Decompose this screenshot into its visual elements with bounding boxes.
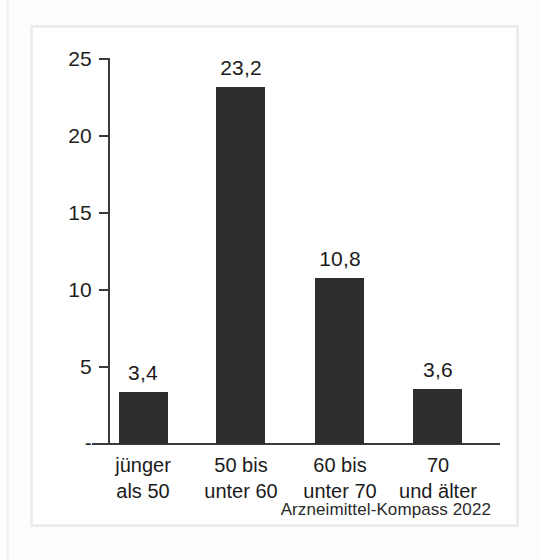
- chart-figure: 25 20 15 10 5 - 3,4 23,2 10,8 3,6 jünger…: [0, 0, 539, 560]
- bar-value-label-4: 3,6: [423, 358, 453, 382]
- bar-value-label-1: 3,4: [128, 361, 158, 385]
- x-category-label-3: 60 bis unter 70: [303, 452, 376, 505]
- bar-value-label-3: 10,8: [319, 247, 361, 271]
- x-category-label-1-line-2: als 50: [115, 478, 171, 504]
- x-category-label-3-line-1: 60 bis: [303, 452, 376, 478]
- bar-value-label-2: 23,2: [220, 56, 262, 80]
- bar-60-bis-unter-70[interactable]: [315, 278, 364, 444]
- x-category-label-4: 70 und älter: [399, 452, 477, 505]
- x-category-label-2-line-1: 50 bis: [204, 452, 277, 478]
- bars-layer: [0, 0, 539, 444]
- x-category-label-1-line-1: jünger: [115, 452, 171, 478]
- source-note: Arzneimittel-Kompass 2022: [281, 500, 491, 520]
- bar-juenger-als-50[interactable]: [119, 392, 168, 444]
- bar-70-und-aelter[interactable]: [413, 389, 462, 444]
- x-category-label-1: jünger als 50: [115, 452, 171, 505]
- x-category-label-4-line-1: 70: [399, 452, 477, 478]
- plot-area: 25 20 15 10 5 - 3,4 23,2 10,8 3,6 jünger…: [0, 0, 539, 560]
- bar-50-bis-unter-60[interactable]: [216, 87, 265, 444]
- x-category-label-2-line-2: unter 60: [204, 478, 277, 504]
- x-category-label-2: 50 bis unter 60: [204, 452, 277, 505]
